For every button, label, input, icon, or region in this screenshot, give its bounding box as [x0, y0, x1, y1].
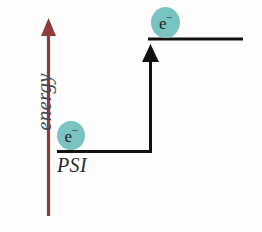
- energy-axis-arrowhead: [41, 18, 56, 36]
- energy-level-diagram: energy PSI e– e–: [0, 0, 262, 232]
- electron-charge-sign: –: [72, 124, 78, 135]
- excitation-arrow-head: [142, 44, 159, 62]
- electron-symbol: e: [159, 15, 167, 32]
- excitation-arrow: [142, 44, 159, 152]
- energy-axis-label: energy: [34, 66, 54, 138]
- electron-charge-sign: –: [167, 11, 173, 22]
- electron-marker-excited: e–: [151, 7, 180, 38]
- electron-symbol: e: [64, 128, 72, 145]
- electron-marker-ground: e–: [57, 121, 85, 150]
- ground-level-caption: PSI: [57, 154, 87, 176]
